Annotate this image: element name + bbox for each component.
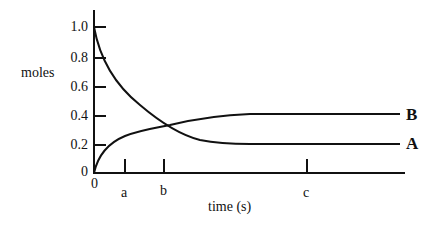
y-tick-label: 1.0: [58, 20, 88, 34]
y-axis-label: moles: [21, 66, 54, 80]
y-tick-label: 0.2: [58, 138, 88, 152]
y-tick-label: 0: [58, 165, 88, 179]
x-axis-label: time (s): [208, 200, 251, 214]
curve-a: [94, 27, 400, 144]
y-ticks: [94, 27, 106, 145]
x-tick-label: b: [160, 184, 167, 198]
y-tick-label: 0.6: [58, 80, 88, 94]
series-label-a: A: [406, 135, 418, 152]
x-tick-label: a: [121, 186, 127, 200]
x-ticks: [125, 159, 307, 173]
y-tick-label: 0.8: [58, 51, 88, 65]
y-tick-label: 0.4: [58, 109, 88, 123]
x-tick-label: c: [303, 186, 309, 200]
series-label-b: B: [406, 106, 417, 123]
x-tick-label: 0: [91, 177, 98, 191]
